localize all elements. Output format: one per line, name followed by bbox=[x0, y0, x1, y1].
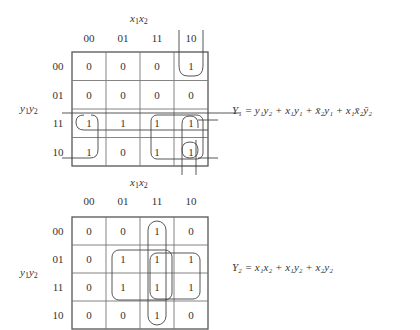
map-Y1-cell: 0 bbox=[86, 89, 92, 101]
map-Y1-cell: 0 bbox=[188, 89, 194, 101]
map-Y2-row-var-label: y1y2 bbox=[19, 266, 38, 280]
map-Y1-row-header: 11 bbox=[53, 117, 64, 129]
map-Y2-cell: 1 bbox=[154, 253, 160, 265]
map-Y1-cell: 1 bbox=[188, 146, 194, 158]
map-Y2-cell: 1 bbox=[188, 281, 194, 293]
y1-loop-x2bar-y1 bbox=[62, 115, 98, 158]
map-Y2-row-header: 01 bbox=[53, 253, 64, 265]
map-Y2-cell: 0 bbox=[86, 309, 92, 321]
map-Y2-cell: 1 bbox=[154, 309, 160, 321]
map-Y2-column-var-label: x1x2 bbox=[129, 176, 148, 190]
map-Y1-column-header: 10 bbox=[186, 32, 198, 44]
map-Y1-cell: 0 bbox=[120, 146, 126, 158]
map-Y1-cell: 1 bbox=[188, 60, 194, 72]
map-Y2-row-header: 11 bbox=[53, 281, 64, 293]
map-Y2-cell: 1 bbox=[120, 253, 126, 265]
map-Y2-cell: 0 bbox=[188, 309, 194, 321]
map-Y2-column-header: 10 bbox=[186, 195, 198, 207]
map-Y1-cell: 0 bbox=[120, 89, 126, 101]
map-Y1-column-var-label: x1x2 bbox=[129, 12, 148, 26]
map-Y1-row-var-label: y1y2 bbox=[19, 102, 38, 116]
map-Y1-cell: 1 bbox=[86, 117, 92, 129]
map-Y1-cell: 1 bbox=[188, 117, 194, 129]
map-Y2-column-header: 00 bbox=[84, 195, 96, 207]
map-Y1-column-header: 00 bbox=[84, 32, 96, 44]
map-Y1-column-header: 01 bbox=[118, 32, 129, 44]
map-Y1-cell: 1 bbox=[86, 146, 92, 158]
map-Y2-cell: 1 bbox=[120, 281, 126, 293]
map-Y2-cell: 0 bbox=[120, 225, 126, 237]
map-Y1-cell: 0 bbox=[154, 60, 160, 72]
map-Y1-row-header: 10 bbox=[53, 146, 65, 158]
map-Y2-cell: 0 bbox=[86, 253, 92, 265]
map-Y1-row-header: 01 bbox=[53, 89, 64, 101]
map-Y2-cell: 1 bbox=[188, 253, 194, 265]
map-Y2-cell: 0 bbox=[188, 225, 194, 237]
map-Y2-row-header: 00 bbox=[53, 225, 65, 237]
map-Y2-column-header: 11 bbox=[152, 195, 163, 207]
karnaugh-maps: x1x2y1y200011110000111100001000011111011… bbox=[0, 0, 420, 330]
map-Y1-cell: 0 bbox=[120, 60, 126, 72]
map-Y1-cell: 1 bbox=[154, 146, 160, 158]
map-Y1-cell: 1 bbox=[120, 117, 126, 129]
map-Y1-cell: 0 bbox=[154, 89, 160, 101]
map-Y1-row-header: 00 bbox=[53, 60, 65, 72]
map-Y2-cell: 0 bbox=[86, 281, 92, 293]
map-Y1-cell: 0 bbox=[86, 60, 92, 72]
map-Y2-cell: 0 bbox=[86, 225, 92, 237]
map-Y2-cell: 0 bbox=[120, 309, 126, 321]
map-Y2-row-header: 10 bbox=[53, 309, 65, 321]
map-Y2-cell: 1 bbox=[154, 281, 160, 293]
map-Y1-column-header: 11 bbox=[152, 32, 163, 44]
map-Y2-cell: 1 bbox=[154, 225, 160, 237]
map-Y1-cell: 1 bbox=[154, 117, 160, 129]
map-Y2-column-header: 01 bbox=[118, 195, 129, 207]
y2-equation: Y₂ = x₁x₂ + x₁y₂ + x₂y₂ bbox=[232, 261, 333, 273]
y1-equation: Y₁ = y₁y₂ + x₁y₁ + x̄₂y₁ + x₁x̄₂ȳ₂ bbox=[232, 104, 372, 116]
